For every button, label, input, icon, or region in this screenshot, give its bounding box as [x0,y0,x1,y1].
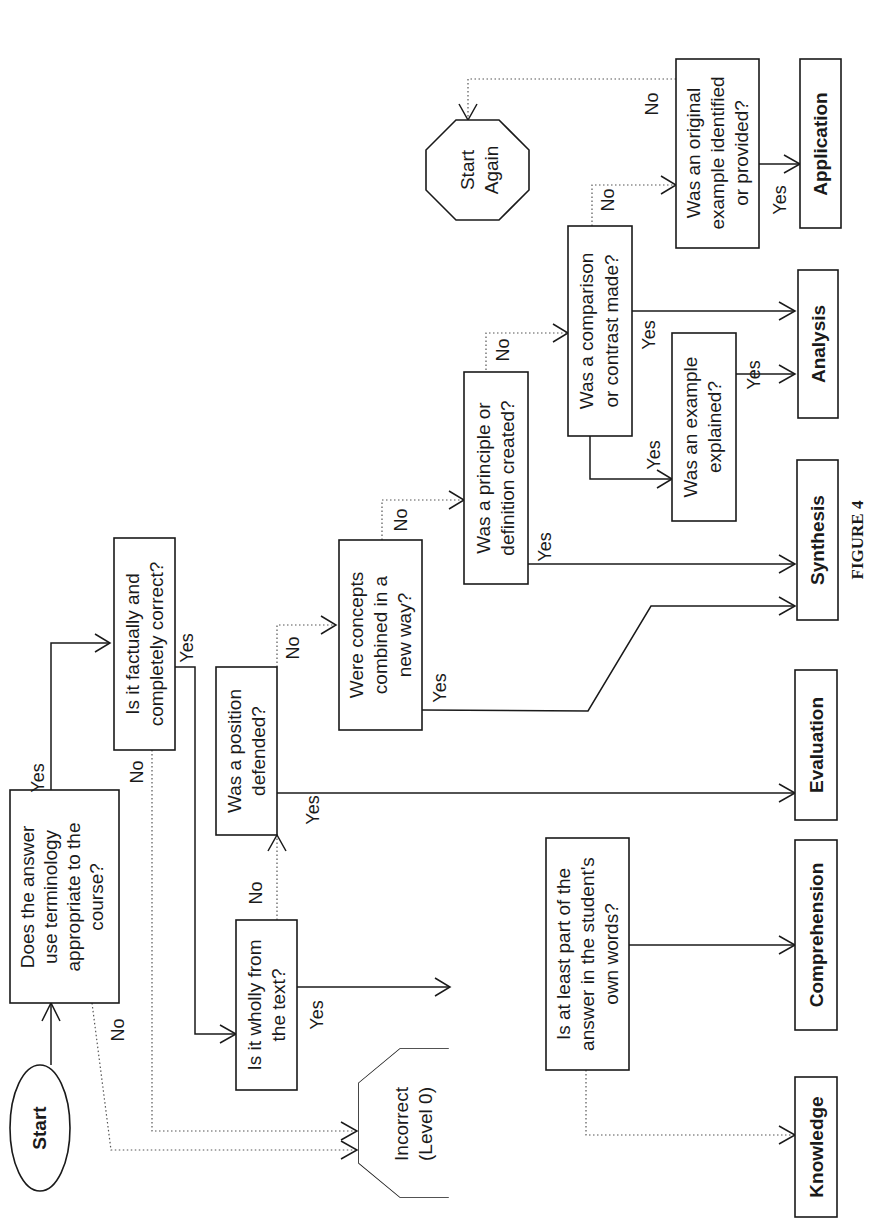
edge-ownwords-knowledge [586,1070,795,1135]
node-text: or provided? [731,100,752,206]
edge-combined-synthesis [422,606,795,711]
node-text: course? [86,863,107,931]
outcome-label: Synthesis [807,495,828,585]
node-text: Were concepts [346,572,367,698]
node-text: Was an example [680,357,701,498]
node-q-comparison: Was a comparison or contrast made? [568,226,632,436]
node-text: answer in the student's [577,857,598,1051]
node-text: Was a principle or [473,402,494,554]
node-text: completely correct? [146,562,167,727]
node-text: definition created? [497,400,518,555]
label-yes: Yes [744,360,764,389]
edge-terminology-factual [51,643,110,790]
node-text: (Level 0) [415,1087,436,1161]
node-start-again: Start Again [426,120,529,220]
node-text: Was a comparison [576,253,597,410]
node-q-example-explained: Was an example explained? [672,333,736,521]
node-q-combined: Were concepts combined in a new way? [339,540,422,730]
outcome-label: Application [810,92,831,195]
node-text: use terminology [40,829,61,964]
label-yes: Yes [307,1000,327,1029]
node-text: appropriate to the [63,823,84,972]
node-text: Again [481,146,502,195]
start-label: Start [29,1106,50,1150]
outcome-label: Knowledge [806,1096,827,1197]
outcome-application: Application [800,59,841,228]
node-text: own words? [601,903,622,1004]
node-text: Was a position [224,689,245,813]
outcome-synthesis: Synthesis [797,460,838,620]
label-no: No [493,338,513,361]
node-text: example identified [707,76,728,229]
outcome-label: Analysis [808,305,829,383]
outcome-label: Evaluation [806,697,827,793]
node-text: or contrast made? [601,254,622,407]
label-yes: Yes [177,633,197,662]
node-text: new way? [394,593,415,678]
label-no: No [283,636,303,659]
node-text: the text? [268,969,289,1042]
node-q-original-example: Was an original example identified or pr… [676,59,759,248]
label-no: No [246,881,266,904]
node-q-principle: Was a principle or definition created? [464,372,528,584]
node-text: Incorrect [391,1086,412,1161]
node-text: combined in a [370,575,391,694]
node-q-position: Was a position defended? [216,667,277,835]
node-q-wholly-text: Is it wholly from the text? [236,920,297,1090]
label-yes: Yes [639,320,659,349]
node-incorrect: Incorrect (Level 0) [359,1049,452,1197]
node-start: Start [10,1065,70,1191]
outcome-label: Comprehension [806,863,827,1008]
label-yes: Yes [430,673,450,702]
node-text: Was an original [683,88,704,218]
node-text: Start [457,149,478,190]
outcome-analysis: Analysis [798,270,838,418]
node-text: Is it wholly from [244,940,265,1071]
node-q-own-words: Is at least part of the answer in the st… [546,838,629,1070]
node-q-terminology: Does the answer use terminology appropri… [10,790,119,1003]
label-yes: Yes [535,532,555,561]
figure-caption: FIGURE 4 [848,500,867,579]
outcome-comprehension: Comprehension [795,840,837,1030]
flowchart: Start Does the answer use terminology ap… [0,0,872,1224]
label-no: No [391,508,411,531]
node-q-factual: Is it factually and completely correct? [114,538,175,750]
node-text: explained? [704,381,725,473]
label-no: No [108,1018,128,1041]
node-text: Is it factually and [122,573,143,715]
node-text: Does the answer [17,825,38,968]
label-no: No [598,188,618,211]
label-no: No [642,92,662,115]
node-text: Is at least part of the [553,868,574,1040]
node-text: defended? [248,706,269,796]
outcome-evaluation: Evaluation [795,670,837,820]
label-yes: Yes [770,185,790,214]
outcome-knowledge: Knowledge [795,1077,837,1217]
label-no: No [127,760,147,783]
label-yes: Yes [28,763,48,792]
label-yes: Yes [303,795,323,824]
label-yes: Yes [644,440,664,469]
